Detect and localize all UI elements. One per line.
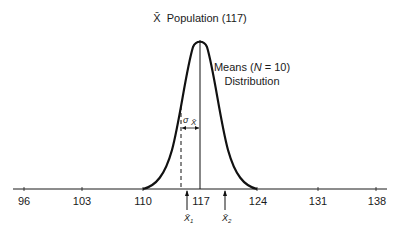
diagram-title: X̄ Population (117) [153,12,246,24]
curve-label-line2: Distribution [224,75,279,87]
tick-label: 117 [192,195,210,207]
xbar1-marker-arrow [185,190,189,210]
x-axis-tick-labels: 96 103 110 117 124 131 138 [18,195,386,207]
tick-label: 96 [18,195,30,207]
xbar-symbol: X̄ [153,12,161,24]
xbar2-label: X̄2 [221,213,232,224]
curve-label-line1: Means (N = 10) [214,61,290,73]
tick-label: 138 [368,195,386,207]
tick-label: 131 [309,195,327,207]
tick-label: 124 [249,195,267,207]
tick-label: 110 [134,195,152,207]
xbar1-label: X̄1 [183,213,193,224]
title-text: Population (117) [167,12,247,24]
sigma-xbar-label: σ X̄ [183,115,197,127]
sampling-distribution-diagram: X̄ Population (117) 96 103 110 117 124 1… [0,0,399,231]
xbar2-marker-arrow [223,190,227,210]
tick-label: 103 [73,195,91,207]
